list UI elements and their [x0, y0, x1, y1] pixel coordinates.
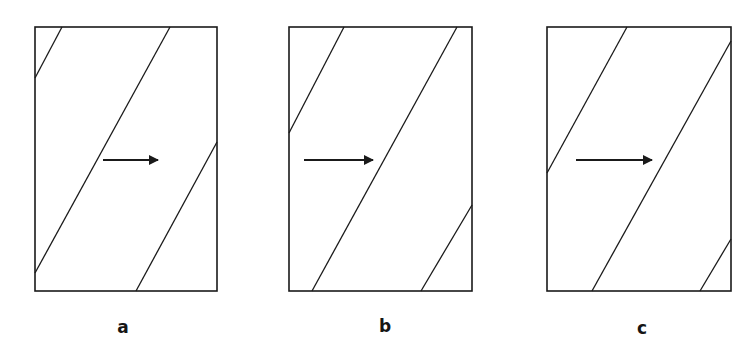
panel-b	[289, 27, 472, 291]
panel-c-diagonal-line-3	[700, 239, 731, 291]
panel-b-label: b	[379, 318, 391, 335]
panel-c	[547, 27, 731, 291]
figure: a b c	[0, 0, 754, 351]
panel-c-diagonal-line-2	[592, 41, 731, 291]
panel-b-diagonal-line-3	[421, 205, 472, 291]
panel-c-diagonal-line-1	[547, 27, 627, 173]
panel-a-diagonal-line-2	[35, 27, 170, 273]
panel-c-label: c	[637, 320, 647, 337]
panel-a	[35, 27, 217, 291]
panel-a-diagonal-line-1	[35, 27, 62, 78]
panel-a-label: a	[117, 319, 128, 336]
figure-canvas	[0, 0, 754, 351]
panel-a-diagonal-line-3	[136, 142, 217, 291]
panel-b-diagonal-line-1	[289, 27, 344, 133]
